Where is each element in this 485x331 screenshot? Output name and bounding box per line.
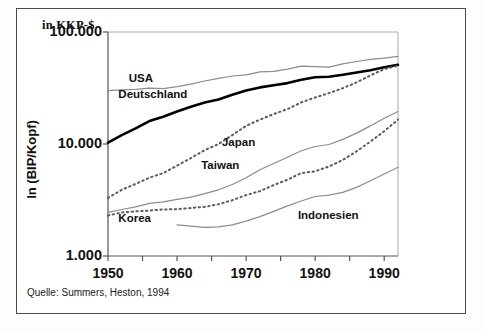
series-label-indonesien: Indonesien [298, 209, 359, 221]
series-label-deutschland: Deutschland [118, 88, 187, 100]
y-tick-label: 1.000 [24, 247, 102, 263]
y-tick-label: 10.000 [24, 135, 102, 151]
series-label-japan: Japan [222, 136, 255, 148]
y-tick-label: 100.000 [24, 23, 102, 39]
series-line-japan [108, 66, 398, 198]
series-line-indonesien [177, 167, 398, 227]
figure-container: in KKP-$ ln (BIP/Kopf) Quelle: Summers, … [0, 0, 485, 331]
series-label-taiwan: Taiwan [201, 159, 239, 171]
series-label-korea: Korea [118, 212, 151, 224]
x-tick-label: 1980 [285, 265, 345, 281]
source-note: Quelle: Summers, Heston, 1994 [27, 287, 169, 298]
x-tick-label: 1990 [354, 265, 414, 281]
series-line-taiwan [108, 112, 398, 213]
chart-plot [0, 0, 485, 331]
x-tick-label: 1960 [147, 265, 207, 281]
x-tick-label: 1950 [78, 265, 138, 281]
x-tick-label: 1970 [216, 265, 276, 281]
series-label-usa: USA [129, 72, 153, 84]
